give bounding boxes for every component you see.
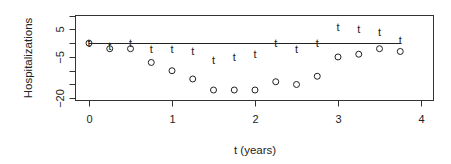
data-point-o	[377, 46, 383, 52]
data-point-t: t	[357, 23, 360, 35]
x-tick-label: 3	[335, 113, 341, 125]
y-axis: 5−5−20	[54, 17, 76, 108]
data-point-t: t	[253, 48, 256, 60]
data-point-t: t	[233, 51, 236, 63]
data-point-o	[397, 48, 403, 54]
data-point-t: t	[129, 37, 132, 49]
data-point-o	[356, 51, 362, 57]
data-point-t: t	[191, 45, 194, 57]
x-tick-label: 4	[418, 113, 424, 125]
data-point-o	[148, 59, 154, 65]
data-point-t: t	[170, 43, 173, 55]
chart: 5−5−20 01234 tttttttttttttttt t (years) …	[0, 0, 451, 164]
data-point-o	[273, 79, 279, 85]
data-point-o	[211, 87, 217, 93]
y-tick-label: −20	[54, 89, 66, 108]
data-point-t: t	[108, 40, 111, 52]
data-point-t: t	[150, 43, 153, 55]
data-point-o	[335, 54, 341, 60]
x-tick-label: 1	[169, 113, 175, 125]
data-point-o	[169, 68, 175, 74]
x-axis: 01234	[86, 101, 424, 126]
x-tick-label: 2	[252, 113, 258, 125]
data-point-t: t	[316, 37, 319, 49]
data-point-o	[190, 76, 196, 82]
y-tick-label: −5	[54, 51, 66, 64]
data-point-o	[231, 87, 237, 93]
y-axis-label: Hospitalizations	[22, 17, 34, 98]
x-axis-label: t (years)	[234, 144, 276, 156]
data-point-t: t	[274, 37, 277, 49]
data-point-t: t	[378, 26, 381, 38]
data-point-o	[252, 87, 258, 93]
data-point-t: t	[87, 37, 90, 49]
data-point-t: t	[212, 54, 215, 66]
data-point-o	[294, 81, 300, 87]
data-point-t: t	[336, 21, 339, 33]
data-point-o	[314, 73, 320, 79]
y-tick-label: 5	[54, 26, 66, 32]
series-o	[86, 40, 403, 93]
x-tick-label: 0	[86, 113, 92, 125]
data-point-t: t	[399, 34, 402, 46]
data-point-t: t	[295, 43, 298, 55]
